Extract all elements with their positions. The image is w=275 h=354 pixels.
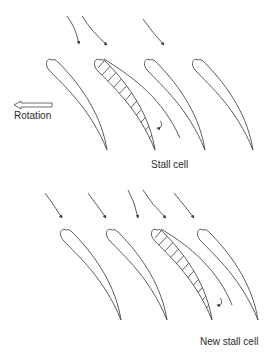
bottom-panel bbox=[45, 190, 258, 322]
curled-arrow-icon bbox=[217, 298, 222, 305]
inflow-arrow-icon bbox=[143, 19, 164, 45]
rotating-stall-diagram bbox=[0, 0, 275, 354]
inflow-arrow-icon bbox=[143, 190, 166, 218]
separation-line bbox=[104, 59, 180, 138]
stalled-blade bbox=[151, 220, 232, 322]
inflow-arrows bbox=[67, 16, 164, 45]
separation-line bbox=[161, 229, 232, 305]
inflow-arrow-icon bbox=[82, 16, 107, 45]
stall-hatching bbox=[96, 50, 164, 152]
stall-cell-label: Stall cell bbox=[151, 159, 188, 170]
blade-4 bbox=[197, 229, 258, 320]
stalled-blade bbox=[94, 50, 180, 152]
inflow-arrow-icon bbox=[174, 193, 194, 218]
blade-4 bbox=[192, 59, 253, 150]
top-panel bbox=[14, 16, 253, 152]
rotation-label: Rotation bbox=[14, 110, 51, 121]
new-stall-cell-label: New stall cell bbox=[200, 336, 258, 347]
left-hollow-arrow-icon bbox=[14, 101, 52, 109]
inflow-arrow-icon bbox=[45, 193, 62, 218]
inflow-arrow-icon bbox=[67, 16, 79, 44]
blade-2 bbox=[106, 229, 167, 320]
inflow-arrows bbox=[45, 190, 194, 218]
blade-1 bbox=[46, 59, 107, 150]
curled-arrow-icon bbox=[157, 121, 162, 128]
inflow-arrow-icon bbox=[128, 190, 138, 218]
blade-3 bbox=[144, 59, 205, 150]
inflow-arrow-icon bbox=[88, 193, 106, 218]
stall-hatching bbox=[153, 220, 221, 322]
